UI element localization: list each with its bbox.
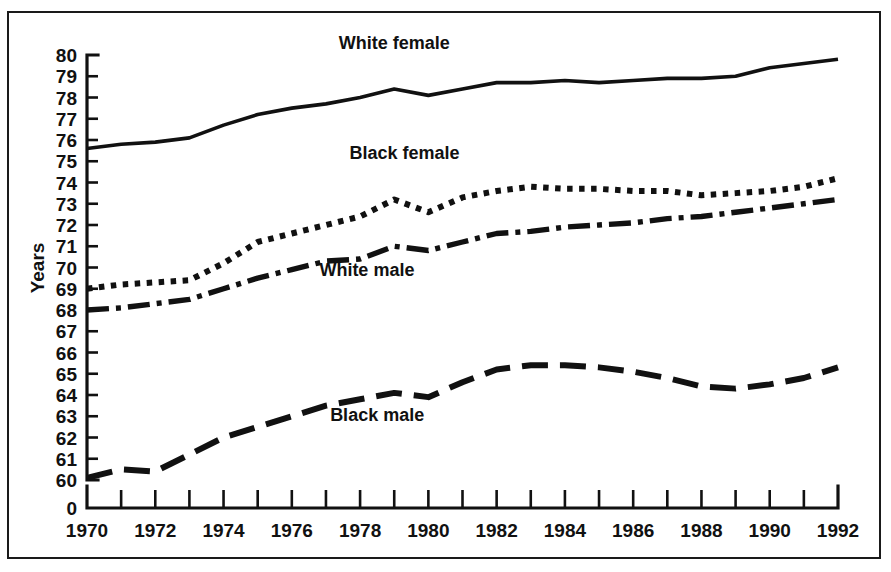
series-line-black-female bbox=[87, 178, 838, 289]
series-lines bbox=[87, 59, 838, 478]
series-line-white-male bbox=[87, 200, 838, 311]
y-tick-label: 72 bbox=[56, 215, 77, 236]
y-tick-label: 67 bbox=[56, 321, 77, 342]
series-line-black-male bbox=[87, 365, 838, 478]
x-tick-label: 1972 bbox=[134, 520, 176, 541]
y-axis-title: Years bbox=[27, 243, 48, 294]
series-label-white-female: White female bbox=[339, 33, 450, 53]
x-tick-label: 1974 bbox=[202, 520, 245, 541]
y-tick-label: 65 bbox=[56, 364, 78, 385]
series-label-white-male: White male bbox=[319, 260, 414, 280]
y-tick-label: 75 bbox=[56, 151, 78, 172]
x-axis: 0197019721974197619781980198219841986198… bbox=[66, 486, 859, 541]
y-tick-label: 76 bbox=[56, 130, 77, 151]
y-tick-label: 61 bbox=[56, 449, 78, 470]
y-tick-label: 73 bbox=[56, 194, 77, 215]
x-tick-label: 1976 bbox=[271, 520, 313, 541]
x-tick-label: 1992 bbox=[817, 520, 859, 541]
y-tick-label: 63 bbox=[56, 406, 77, 427]
x-tick-label: 1980 bbox=[407, 520, 449, 541]
x-tick-label: 1986 bbox=[612, 520, 654, 541]
y-tick-label: 66 bbox=[56, 343, 77, 364]
x-tick-label: 1984 bbox=[544, 520, 587, 541]
figure-root: 8079787776757473727170696867666564636261… bbox=[0, 0, 891, 572]
y-tick-label: 70 bbox=[56, 258, 77, 279]
y-tick-label: 64 bbox=[56, 385, 78, 406]
y-tick-label: 77 bbox=[56, 109, 77, 130]
series-label-black-male: Black male bbox=[330, 405, 424, 425]
y-tick-label: 78 bbox=[56, 88, 77, 109]
y-tick-label: 62 bbox=[56, 428, 77, 449]
x-tick-label: 1988 bbox=[680, 520, 722, 541]
y-tick-label: 80 bbox=[56, 45, 77, 66]
x-tick-label: 1990 bbox=[749, 520, 791, 541]
y-tick-label: 74 bbox=[56, 173, 78, 194]
x-tick-label: 1970 bbox=[66, 520, 108, 541]
x-tick-label: 1982 bbox=[475, 520, 517, 541]
y-axis: 8079787776757473727170696867666564636261… bbox=[56, 45, 98, 491]
y-tick-label: 68 bbox=[56, 300, 77, 321]
series-label-black-female: Black female bbox=[349, 143, 459, 163]
series-line-white-female bbox=[87, 59, 838, 148]
y-tick-label: 71 bbox=[56, 236, 78, 257]
axis-break-zero-label: 0 bbox=[66, 498, 77, 519]
y-tick-label: 60 bbox=[56, 470, 77, 491]
y-tick-label: 69 bbox=[56, 279, 77, 300]
line-chart: 8079787776757473727170696867666564636261… bbox=[0, 0, 891, 572]
axis-titles: Years bbox=[27, 243, 48, 294]
x-tick-label: 1978 bbox=[339, 520, 381, 541]
y-tick-label: 79 bbox=[56, 66, 77, 87]
